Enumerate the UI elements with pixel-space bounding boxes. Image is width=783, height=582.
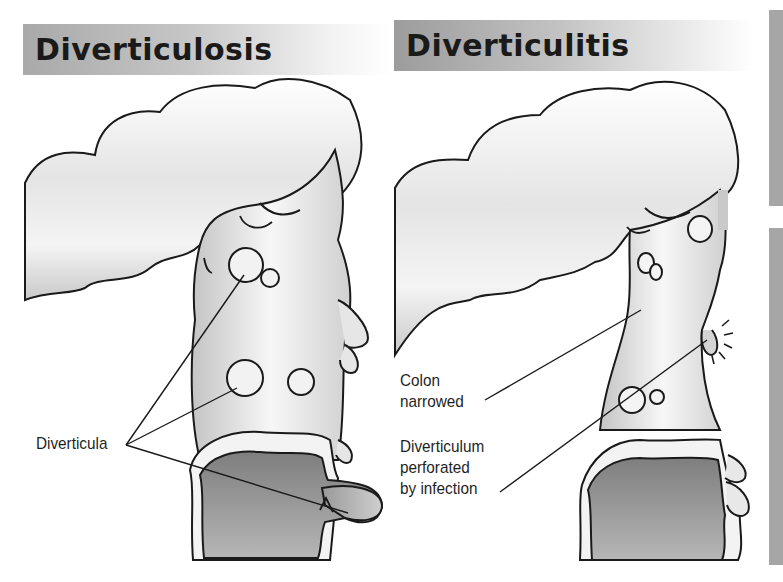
- label-colon-line2: narrowed: [400, 391, 464, 412]
- colon-illustrations: [0, 0, 783, 582]
- diverticulosis-colon: [25, 79, 382, 560]
- label-perforated-line1: Diverticulum: [400, 436, 484, 457]
- label-perforated-line3: by infection: [400, 478, 484, 499]
- label-colon-narrowed: Colon narrowed: [400, 370, 464, 412]
- label-diverticula: Diverticula: [36, 433, 107, 454]
- label-perforated-line2: perforated: [400, 457, 484, 478]
- label-colon-line1: Colon: [400, 370, 464, 391]
- label-diverticulum-perforated: Diverticulum perforated by infection: [400, 436, 484, 499]
